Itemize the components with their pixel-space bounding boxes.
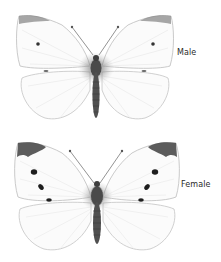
female-butterfly-illustration xyxy=(0,131,221,262)
butterfly-icon xyxy=(0,131,221,262)
male-label: Male xyxy=(177,48,196,57)
male-butterfly-illustration xyxy=(0,0,221,135)
female-label: Female xyxy=(181,180,211,189)
butterfly-icon xyxy=(0,0,221,131)
